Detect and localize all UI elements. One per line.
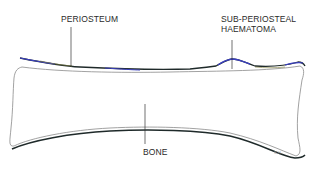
periosteum-blue-right [285, 63, 303, 65]
bone-label: BONE [143, 147, 168, 157]
periosteum-olive-strand [40, 61, 72, 66]
periosteum-label: PERIOSTEUM [61, 14, 118, 24]
haematoma-label-line1: SUB-PERIOSTEAL [221, 14, 296, 24]
bone-outline [10, 66, 304, 156]
haematoma-label-line2: HAEMATOMA [221, 24, 296, 34]
periosteum-olive-strand-2 [255, 67, 285, 68]
bone-diagram: PERIOSTEUM SUB-PERIOSTEAL HAEMATOMA BONE… [0, 0, 317, 171]
cropped-caption: ... [8, 166, 15, 171]
artist-signature: S.H. [274, 150, 282, 155]
haematoma-bulge [218, 59, 250, 65]
haematoma-label: SUB-PERIOSTEAL HAEMATOMA [221, 14, 296, 34]
